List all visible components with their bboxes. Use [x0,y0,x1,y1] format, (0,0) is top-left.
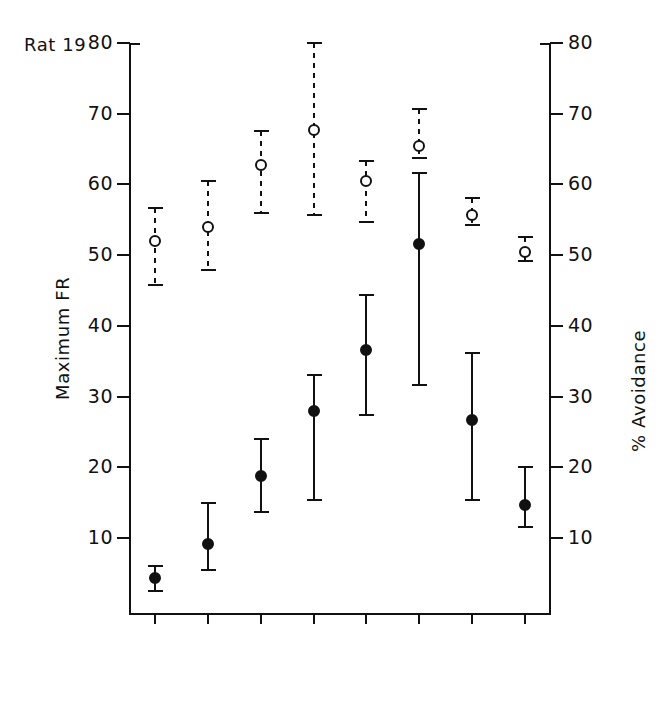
error-bar [524,467,526,528]
filled-circle-marker [202,538,214,550]
y-axis-right-tick [550,254,563,256]
y-axis-right-tick-label: 30 [568,387,593,406]
y-axis-right-tick [550,396,563,398]
maxfr-datapoint-group [155,0,156,709]
error-bar [471,353,473,500]
y-axis-left-tick-label: 60 [88,174,113,193]
y-axis-left-tick-label: 30 [88,387,113,406]
y-axis-left-top-tick [129,43,140,45]
error-bar-cap-upper [412,172,427,174]
error-bar [418,173,420,385]
y-axis-right-tick-label: 10 [568,528,593,547]
subject-label: Rat 19 [24,34,86,55]
y-axis-right-tick-label: 20 [568,457,593,476]
maxfr-datapoint-group [314,0,315,709]
y-axis-right-tick-label: 80 [568,33,593,52]
y-axis-left-tick [117,254,130,256]
error-bar [207,503,209,570]
error-bar-cap-lower [518,526,533,528]
y-axis-right-tick-label: 40 [568,316,593,335]
y-axis-right-tick [550,325,563,327]
y-axis-right-tick-label: 70 [568,104,593,123]
y-axis-left-tick-label: 70 [88,104,113,123]
filled-circle-marker [413,238,425,250]
error-bar-cap-lower [148,590,163,592]
filled-circle-marker [519,499,531,511]
error-bar-cap-lower [254,511,269,513]
filled-circle-marker [149,572,161,584]
error-bar-cap-upper [465,352,480,354]
y-axis-left-tick-label: 40 [88,316,113,335]
error-bar-cap-lower [465,499,480,501]
y-axis-right-tick-label: 60 [568,174,593,193]
filled-circle-marker [308,405,320,417]
y-axis-left-tick [117,113,130,115]
error-bar [313,375,315,499]
chart-figure: Rat 19 1020304050607080 1020304050607080… [0,0,656,709]
y-axis-left-tick [117,396,130,398]
error-bar-cap-upper [148,565,163,567]
y-axis-right-tick [550,113,563,115]
y-axis-right [549,43,551,615]
filled-circle-marker [466,414,478,426]
maxfr-datapoint-group [261,0,262,709]
y-axis-left-tick [117,325,130,327]
y-axis-right-tick [550,466,563,468]
y-axis-right-tick [550,183,563,185]
error-bar-cap-upper [307,374,322,376]
y-axis-left-title: Maximum FR [52,277,73,400]
filled-circle-marker [255,470,267,482]
y-axis-left-tick-label: 80 [88,33,113,52]
error-bar-cap-upper [518,466,533,468]
y-axis-left [129,43,131,615]
maxfr-datapoint-group [208,0,209,709]
maxfr-datapoint-group [419,0,420,709]
y-axis-left-tick [117,183,130,185]
y-axis-right-title: % Avoidance [628,330,649,452]
error-bar-cap-lower [412,384,427,386]
y-axis-left-tick-label: 20 [88,457,113,476]
y-axis-left-tick [117,466,130,468]
filled-circle-marker [360,344,372,356]
y-axis-left-tick-label: 50 [88,245,113,264]
error-bar-cap-lower [201,569,216,571]
maxfr-datapoint-group [366,0,367,709]
y-axis-left-tick [117,42,130,44]
error-bar-cap-lower [307,499,322,501]
y-axis-right-tick [550,42,563,44]
error-bar-cap-upper [359,294,374,296]
error-bar-cap-lower [359,414,374,416]
maxfr-datapoint-group [525,0,526,709]
y-axis-right-tick-label: 50 [568,245,593,264]
y-axis-right-tick [550,537,563,539]
error-bar-cap-upper [254,438,269,440]
y-axis-left-tick [117,537,130,539]
x-axis [129,613,551,615]
error-bar-cap-upper [201,502,216,504]
y-axis-left-tick-label: 10 [88,528,113,547]
maxfr-datapoint-group [472,0,473,709]
